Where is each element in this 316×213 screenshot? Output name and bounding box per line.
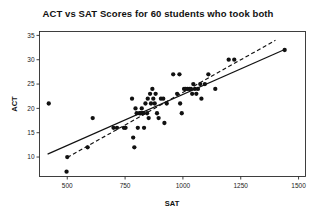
data-point — [180, 111, 184, 115]
x-tick-label: 500 — [62, 182, 73, 189]
x-tick-label: 1250 — [234, 182, 249, 189]
data-point — [227, 58, 231, 62]
data-point — [132, 145, 136, 149]
data-point — [175, 92, 179, 96]
data-point — [165, 101, 169, 105]
data-point — [149, 101, 153, 105]
data-point — [206, 72, 210, 76]
data-point — [162, 121, 166, 125]
data-point — [133, 106, 137, 110]
data-point — [47, 101, 51, 105]
data-point — [177, 72, 181, 76]
data-point — [147, 116, 151, 120]
data-point — [140, 106, 144, 110]
y-tick-label: 25 — [27, 80, 35, 87]
data-point — [190, 92, 194, 96]
data-point — [123, 126, 127, 130]
data-point — [150, 87, 154, 91]
y-axis-ticks: 101520253035 — [27, 32, 39, 161]
x-tick-label: 1000 — [176, 182, 191, 189]
data-point — [153, 101, 157, 105]
data-point — [178, 101, 182, 105]
data-point — [115, 126, 119, 130]
data-point — [85, 145, 89, 149]
data-point — [141, 111, 145, 115]
data-point — [136, 126, 140, 130]
data-point — [155, 111, 159, 115]
x-tick-label: 1500 — [291, 182, 306, 189]
data-point — [199, 96, 203, 100]
x-axis-label: SAT — [165, 199, 180, 208]
scatter-plot-svg: 500750100012501500 101520253035 SAT ACT — [0, 0, 316, 213]
data-point — [146, 96, 150, 100]
data-point — [64, 169, 68, 173]
fit-lines — [48, 40, 285, 157]
y-tick-label: 35 — [27, 32, 35, 39]
y-tick-label: 30 — [27, 56, 35, 63]
data-point — [65, 155, 69, 159]
data-point — [161, 96, 165, 100]
data-point — [91, 116, 95, 120]
data-point — [191, 82, 195, 86]
chart-figure: ACT vs SAT Scores for 60 students who to… — [0, 0, 316, 213]
data-point — [142, 126, 146, 130]
data-point — [131, 135, 135, 139]
data-point — [130, 96, 134, 100]
x-axis-ticks: 500750100012501500 — [62, 177, 306, 189]
y-axis-label: ACT — [10, 96, 19, 112]
data-point — [145, 111, 149, 115]
x-tick-label: 750 — [120, 182, 131, 189]
data-point — [171, 72, 175, 76]
data-point — [198, 82, 202, 86]
data-point — [153, 92, 157, 96]
data-point — [189, 87, 193, 91]
data-point — [283, 48, 287, 52]
data-point — [232, 58, 236, 62]
data-point — [203, 82, 207, 86]
data-point — [156, 116, 160, 120]
data-point — [194, 92, 198, 96]
data-point — [148, 92, 152, 96]
data-points — [47, 48, 287, 174]
reference-line-dashed — [67, 40, 275, 157]
data-point — [151, 96, 155, 100]
y-tick-label: 10 — [27, 153, 35, 160]
plot-frame — [40, 32, 306, 177]
data-point — [143, 101, 147, 105]
y-tick-label: 15 — [27, 129, 35, 136]
y-tick-label: 20 — [27, 105, 35, 112]
data-point — [196, 87, 200, 91]
data-point — [213, 87, 217, 91]
